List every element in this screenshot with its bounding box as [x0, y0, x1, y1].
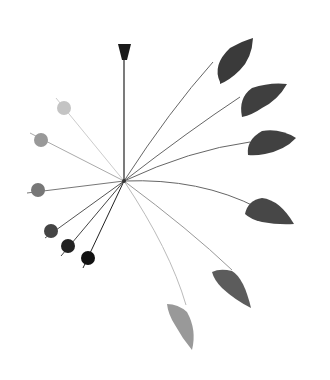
balls	[31, 101, 95, 265]
leaf-5	[212, 270, 251, 308]
hub	[122, 179, 126, 183]
ball-5	[61, 239, 75, 253]
ball-1	[57, 101, 71, 115]
leaf-6	[167, 304, 194, 350]
leaf-2	[241, 84, 287, 118]
leaf-4	[245, 198, 294, 224]
ball-6	[81, 251, 95, 265]
ceiling-cap	[118, 44, 131, 60]
ball-rods	[27, 98, 124, 268]
ball-2	[34, 133, 48, 147]
leaf-3	[248, 130, 296, 155]
ball-3	[31, 183, 45, 197]
mobile-sculpture-svg	[0, 0, 330, 380]
mobile-sculpture-image	[0, 0, 330, 380]
leaves	[167, 38, 296, 350]
ball-4	[44, 224, 58, 238]
leaf-rods	[124, 62, 258, 305]
leaf-1	[218, 38, 253, 84]
